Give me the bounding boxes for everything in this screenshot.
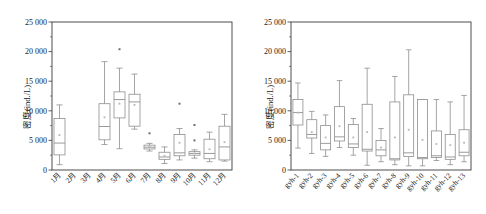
- mean-marker: [311, 131, 313, 133]
- mean-marker: [119, 103, 121, 105]
- x-category-label: 11月: [196, 171, 212, 187]
- box-item: [404, 50, 414, 166]
- box-item: [418, 100, 428, 166]
- box-rect: [114, 92, 125, 118]
- box-item: [348, 118, 358, 155]
- y-tick-label: 10 000: [264, 107, 286, 116]
- y-tick-label: 20 000: [264, 47, 286, 56]
- mean-marker: [339, 125, 341, 127]
- mean-marker: [134, 104, 136, 106]
- x-category-label: 8月: [153, 171, 167, 185]
- mean-marker: [449, 144, 451, 146]
- box-rect: [307, 120, 317, 138]
- mean-marker: [164, 155, 166, 157]
- mean-marker: [463, 142, 465, 144]
- box-item: [99, 62, 110, 145]
- box-item: [219, 114, 230, 161]
- x-category-label: 5月: [108, 171, 122, 185]
- x-category-label: 2月: [63, 171, 77, 185]
- box-item: [114, 48, 125, 148]
- box-item: [54, 105, 65, 165]
- boxplot-panel-monthly: 密度(ind./L) 05 00010 00015 00020 00025 00…: [0, 0, 243, 214]
- box-item: [431, 100, 441, 161]
- y-tick-label: 25 000: [264, 18, 286, 27]
- box-rect: [129, 94, 140, 126]
- mean-marker: [297, 112, 299, 114]
- box-item: [189, 124, 200, 158]
- y-tick-label: 5 000: [268, 136, 286, 145]
- boxplot-svg-left: 05 00010 00015 00020 00025 0001月2月3月4月5月…: [0, 0, 243, 214]
- box-rect: [404, 95, 414, 157]
- mean-marker: [380, 147, 382, 149]
- x-category-label: 3月: [78, 171, 92, 185]
- box-item: [445, 102, 455, 165]
- outlier-marker: [194, 124, 196, 126]
- mean-marker: [352, 137, 354, 139]
- box-item: [129, 74, 140, 129]
- mean-marker: [59, 134, 61, 136]
- mean-marker: [422, 139, 424, 141]
- box-rect: [362, 104, 372, 151]
- outlier-marker: [194, 139, 196, 141]
- mean-marker: [224, 141, 226, 143]
- figure-canvas: 密度(ind./L) 05 00010 00015 00020 00025 00…: [0, 0, 486, 214]
- mean-marker: [408, 129, 410, 131]
- mean-marker: [209, 148, 211, 150]
- box-item: [376, 129, 386, 162]
- y-tick-label: 20 000: [25, 47, 47, 56]
- box-item: [204, 132, 215, 162]
- mean-marker: [435, 143, 437, 145]
- x-category-label: 1月: [48, 171, 62, 185]
- mean-marker: [104, 116, 106, 118]
- mean-marker: [149, 146, 151, 148]
- x-category-label: 7月: [138, 171, 152, 185]
- box-rect: [418, 100, 428, 159]
- box-item: [159, 147, 170, 164]
- box-item: [307, 111, 317, 153]
- mean-marker: [394, 137, 396, 139]
- outlier-marker: [119, 48, 121, 50]
- y-tick-label: 25 000: [25, 18, 47, 27]
- y-tick-label: 5 000: [29, 136, 47, 145]
- box-item: [144, 132, 155, 151]
- box-rect: [54, 118, 65, 154]
- y-tick-label: 10 000: [25, 107, 47, 116]
- box-item: [293, 83, 303, 148]
- box-rect: [334, 107, 344, 141]
- x-category-label: 9月: [168, 171, 182, 185]
- box-item: [334, 81, 344, 148]
- box-rect: [390, 102, 400, 160]
- box-item: [321, 115, 331, 156]
- mean-marker: [325, 137, 327, 139]
- box-item: [390, 76, 400, 164]
- y-tick-label: 15 000: [264, 77, 286, 86]
- box-item: [459, 95, 469, 161]
- x-category-label: 4月: [93, 171, 107, 185]
- boxplot-panel-sites: 密度(ind./L) 05 00010 00015 00020 00025 00…: [243, 0, 486, 214]
- y-tick-label: 15 000: [25, 77, 47, 86]
- mean-marker: [194, 153, 196, 155]
- mean-marker: [366, 131, 368, 133]
- y-tick-label: 0: [282, 166, 286, 175]
- boxplot-svg-right: 05 00010 00015 00020 00025 000gyh-1gyh-2…: [243, 0, 486, 214]
- box-item: [174, 103, 185, 160]
- x-category-label: 6月: [123, 171, 137, 185]
- box-item: [362, 68, 372, 165]
- mean-marker: [179, 142, 181, 144]
- y-tick-label: 0: [43, 166, 47, 175]
- outlier-marker: [149, 132, 151, 134]
- box-rect: [99, 104, 110, 140]
- x-category-label: 12月: [211, 171, 228, 188]
- box-rect: [445, 134, 455, 159]
- x-category-label: 10月: [181, 171, 198, 188]
- outlier-marker: [179, 103, 181, 105]
